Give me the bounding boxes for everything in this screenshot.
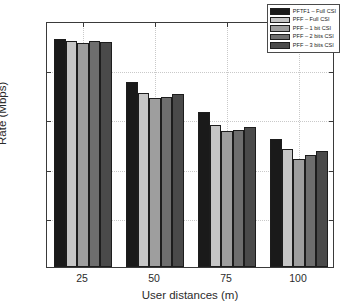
- bar[interactable]: [54, 39, 66, 267]
- x-tick-label: 100: [289, 273, 307, 284]
- y-tick-mark: [47, 220, 51, 221]
- legend-item[interactable]: PFTF1 – Full CSI: [270, 7, 336, 16]
- x-tick-label: 25: [76, 273, 88, 284]
- bar[interactable]: [89, 41, 101, 267]
- bar[interactable]: [233, 130, 245, 267]
- bar[interactable]: [270, 139, 282, 267]
- bar-group: [126, 23, 184, 267]
- y-tick-mark: [47, 171, 51, 172]
- bar[interactable]: [126, 82, 138, 267]
- legend-item[interactable]: PFF – 1 bit CSI: [270, 24, 336, 33]
- legend-label: PFF – 1 bit CSI: [293, 26, 331, 32]
- bar[interactable]: [282, 149, 294, 267]
- legend-swatch-icon: [270, 17, 290, 24]
- legend: PFTF1 – Full CSIPFF – Full CSIPFF – 1 bi…: [267, 4, 340, 53]
- bar[interactable]: [198, 112, 210, 267]
- bar[interactable]: [221, 131, 233, 267]
- bar[interactable]: [77, 43, 89, 267]
- plot-area: [47, 23, 333, 267]
- bar-group: [270, 23, 328, 267]
- legend-swatch-icon: [270, 8, 290, 15]
- legend-item[interactable]: PFF – 3 bits CSI: [270, 41, 336, 50]
- bar[interactable]: [138, 93, 150, 267]
- bar[interactable]: [172, 94, 184, 267]
- legend-swatch-icon: [270, 25, 290, 32]
- bar[interactable]: [100, 42, 112, 267]
- x-tick-label: 75: [220, 273, 232, 284]
- legend-item[interactable]: PFF – 2 bits CSI: [270, 33, 336, 42]
- legend-label: PFF – 3 bits CSI: [293, 43, 334, 49]
- figure: Rate (Mbps) 25 20 15 10 5 0 25 50 75 100…: [0, 0, 343, 306]
- bar[interactable]: [66, 41, 78, 267]
- bar[interactable]: [210, 125, 222, 267]
- y-tick-mark: [329, 171, 333, 172]
- legend-swatch-icon: [270, 42, 290, 49]
- legend-label: PFTF1 – Full CSI: [293, 9, 336, 15]
- legend-label: PFF – Full CSI: [293, 17, 330, 23]
- bar[interactable]: [316, 151, 328, 267]
- bar-group: [54, 23, 112, 267]
- bar[interactable]: [244, 127, 256, 267]
- legend-item[interactable]: PFF – Full CSI: [270, 16, 336, 25]
- x-tick-label: 50: [148, 273, 160, 284]
- y-tick-mark: [329, 220, 333, 221]
- y-axis-label: Rate (Mbps): [0, 82, 8, 145]
- y-tick-mark: [329, 121, 333, 122]
- legend-swatch-icon: [270, 34, 290, 41]
- legend-label: PFF – 2 bits CSI: [293, 34, 334, 40]
- y-tick-mark: [47, 72, 51, 73]
- bar[interactable]: [149, 98, 161, 267]
- bar[interactable]: [293, 159, 305, 267]
- bar[interactable]: [305, 155, 317, 267]
- y-tick-mark: [47, 121, 51, 122]
- bar[interactable]: [161, 97, 173, 267]
- y-tick-mark: [329, 72, 333, 73]
- bar-group: [198, 23, 256, 267]
- x-axis-label: User distances (m): [46, 289, 334, 301]
- plot-frame: [46, 22, 334, 268]
